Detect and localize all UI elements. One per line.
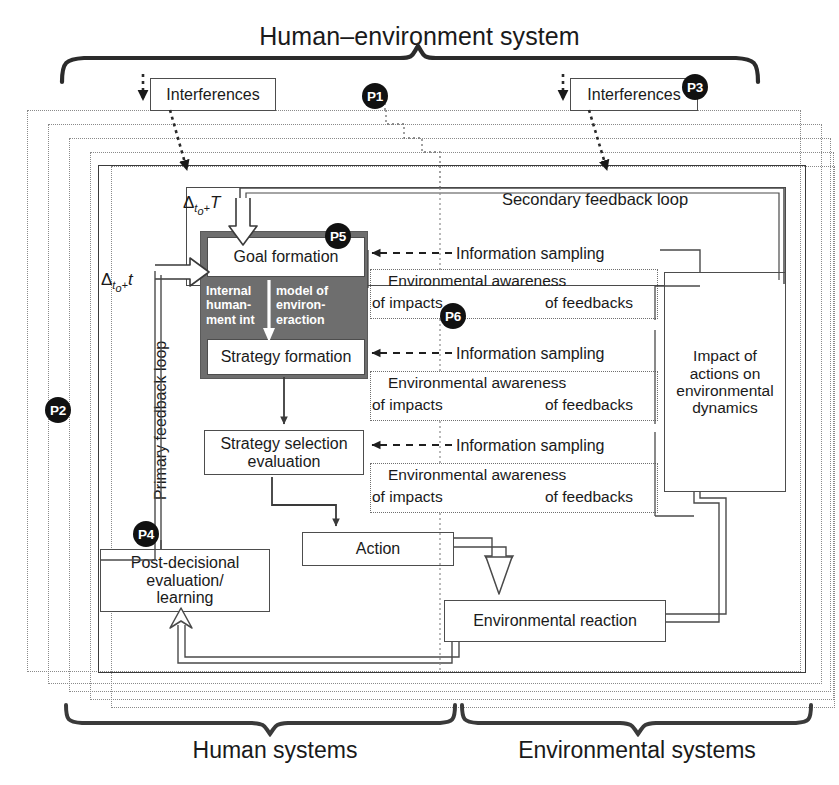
awareness-3-feedbacks: of feedbacks	[545, 488, 633, 506]
marker-p1: P1	[362, 83, 388, 109]
environmental-systems-label: Environmental systems	[452, 738, 822, 764]
marker-p3-label: P3	[687, 80, 703, 95]
human-systems-label: Human systems	[110, 738, 440, 764]
delta-lower-sub: to+	[112, 279, 128, 291]
delta-upper-text: Δ	[183, 193, 194, 212]
delta-lower-var: t	[128, 270, 133, 289]
strategy-selection-box: Strategy selection evaluation	[204, 430, 364, 475]
delta-lower-label: Δto+t	[101, 270, 133, 295]
information-sampling-2: Information sampling	[456, 345, 605, 363]
awareness-1-line1: Environmental awareness	[388, 272, 638, 290]
marker-p5: P5	[325, 223, 351, 249]
impact-of-actions-box: Impact of actions on environmental dynam…	[664, 272, 786, 492]
post-decisional-label: Post-decisional evaluation/ learning	[131, 554, 240, 608]
delta-upper-sub: to+	[194, 202, 210, 214]
information-sampling-3: Information sampling	[456, 437, 605, 455]
marker-p2-label: P2	[50, 403, 66, 418]
top-brace	[62, 46, 758, 82]
awareness-2-feedbacks: of feedbacks	[545, 396, 633, 414]
environmental-reaction-box: Environmental reaction	[444, 600, 666, 642]
information-sampling-1: Information sampling	[456, 245, 605, 263]
awareness-3-line1: Environmental awareness	[388, 466, 638, 484]
marker-p6-label: P6	[445, 309, 461, 324]
primary-feedback-label: Primary feedback loop	[152, 341, 170, 500]
environmental-systems-brace	[462, 705, 811, 734]
action-box: Action	[302, 532, 454, 566]
awareness-1-feedbacks: of feedbacks	[545, 294, 633, 312]
marker-p6: P6	[440, 303, 466, 329]
internal-model-label-left: Internal human- ment int	[206, 284, 268, 327]
awareness-2-impacts: of impacts	[372, 396, 443, 414]
environmental-reaction-label: Environmental reaction	[473, 612, 637, 630]
interferences-left-box: Interferences	[150, 78, 276, 111]
delta-upper-label: Δto+T	[183, 193, 220, 218]
action-label: Action	[356, 540, 400, 558]
strategy-formation-box: Strategy formation	[207, 339, 365, 375]
secondary-feedback-label: Secondary feedback loop	[470, 190, 720, 208]
impact-of-actions-label: Impact of actions on environmental dynam…	[676, 347, 773, 416]
marker-p2: P2	[45, 397, 71, 423]
interferences-right-label: Interferences	[587, 86, 680, 104]
goal-formation-label: Goal formation	[234, 248, 339, 266]
awareness-1-impacts: of impacts	[372, 294, 443, 312]
marker-p3: P3	[682, 74, 708, 100]
post-decisional-box: Post-decisional evaluation/ learning	[100, 549, 270, 612]
interferences-right-box: Interferences	[570, 78, 698, 111]
internal-model-label-right: model of environ- eraction	[276, 284, 352, 327]
delta-lower-text: Δ	[101, 270, 112, 289]
marker-p4: P4	[133, 521, 159, 547]
marker-p4-label: P4	[138, 527, 154, 542]
strategy-selection-label: Strategy selection evaluation	[220, 435, 347, 471]
human-systems-brace	[66, 705, 455, 734]
diagram-canvas: Human–environment system Interferences I…	[0, 0, 839, 785]
marker-p5-label: P5	[330, 229, 346, 244]
page-title: Human–environment system	[0, 22, 839, 50]
interferences-left-label: Interferences	[166, 86, 259, 104]
awareness-3-impacts: of impacts	[372, 488, 443, 506]
marker-p1-label: P1	[367, 89, 383, 104]
strategy-formation-label: Strategy formation	[221, 348, 352, 366]
awareness-2-line1: Environmental awareness	[388, 374, 638, 392]
delta-upper-var: T	[210, 193, 220, 212]
